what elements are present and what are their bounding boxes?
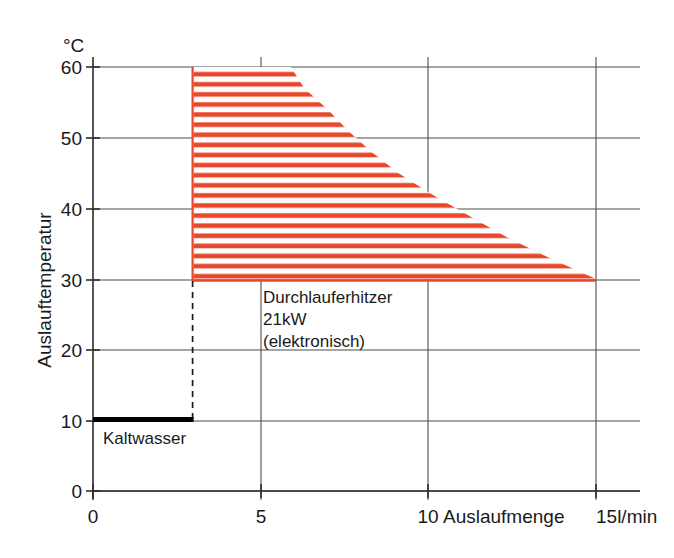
flow-temperature-chart: 60 50 40 30 20 10 0 °C Auslauftemperatur… bbox=[0, 0, 674, 558]
y-tick-label-20: 20 bbox=[61, 340, 82, 361]
y-tick-label-0: 0 bbox=[71, 481, 82, 502]
heater-annotation-line-1: Durchlauferhitzer bbox=[263, 288, 393, 307]
cold-water-label: Kaltwasser bbox=[103, 429, 186, 448]
heater-annotation-line-2: 21kW bbox=[263, 310, 306, 329]
x-tick-label-5: 5 bbox=[256, 506, 267, 527]
x-axis-unit: 15l/min bbox=[596, 506, 657, 527]
y-axis-title: Auslauftemperatur bbox=[34, 212, 55, 368]
heater-annotation-line-3: (elektronisch) bbox=[263, 332, 365, 351]
y-tick-label-40: 40 bbox=[61, 199, 82, 220]
x-tick-label-0: 0 bbox=[88, 506, 99, 527]
y-tick-label-30: 30 bbox=[61, 270, 82, 291]
y-tick-label-10: 10 bbox=[61, 411, 82, 432]
y-axis-unit: °C bbox=[63, 35, 84, 56]
x-axis-title: Auslaufmenge bbox=[443, 506, 564, 527]
y-tick-label-50: 50 bbox=[61, 128, 82, 149]
x-tick-label-10: 10 bbox=[417, 506, 438, 527]
y-tick-label-60: 60 bbox=[61, 57, 82, 78]
chart-container: 60 50 40 30 20 10 0 °C Auslauftemperatur… bbox=[0, 0, 674, 558]
